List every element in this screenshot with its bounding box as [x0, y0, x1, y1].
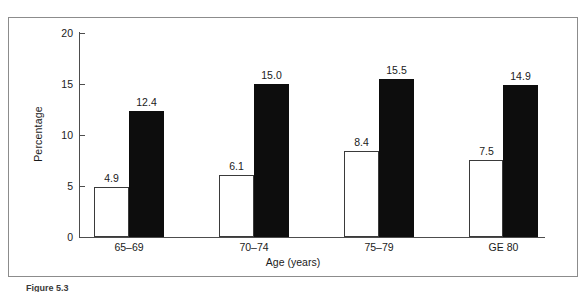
figure-container: 20 15 10 5 0 Percentage 4.9 12.4 65–69 6… [0, 0, 586, 292]
bar-solid-70-74 [254, 84, 289, 237]
y-tick-label-0: 0 [51, 232, 73, 243]
x-tick-label-70-74: 70–74 [228, 241, 280, 253]
y-tick-label-15: 15 [51, 79, 73, 90]
x-tick-label-65-69: 65–69 [103, 241, 155, 253]
y-tick-10 [80, 135, 85, 136]
y-tick-15 [80, 84, 85, 85]
bar-open-70-74 [219, 175, 254, 237]
y-tick-label-20: 20 [51, 28, 73, 39]
x-tick-label-75-79: 75–79 [353, 241, 405, 253]
y-tick-label-5: 5 [51, 181, 73, 192]
bar-label-solid-75-79: 15.5 [371, 65, 422, 76]
y-tick-label-10: 10 [51, 130, 73, 141]
bar-label-solid-70-74: 15.0 [246, 70, 297, 81]
x-axis-line [79, 237, 545, 238]
bar-label-solid-65-69: 12.4 [121, 97, 172, 108]
x-axis-title: Age (years) [0, 256, 586, 268]
y-axis-title: Percentage [32, 84, 44, 184]
bar-open-65-69 [94, 187, 129, 237]
y-tick-0 [80, 237, 85, 238]
bar-solid-65-69 [129, 111, 164, 237]
bar-solid-75-79 [379, 79, 414, 237]
x-tick-label-ge-80: GE 80 [476, 241, 531, 253]
bar-label-solid-ge-80: 14.9 [495, 71, 546, 82]
bar-open-75-79 [344, 151, 379, 237]
y-tick-5 [80, 186, 85, 187]
bar-solid-ge-80 [503, 85, 538, 237]
figure-caption: Figure 5.3 [26, 283, 69, 292]
bar-open-ge-80 [469, 160, 503, 237]
y-tick-20 [80, 33, 85, 34]
bar-chart-plot: 20 15 10 5 0 Percentage 4.9 12.4 65–69 6… [0, 0, 586, 292]
